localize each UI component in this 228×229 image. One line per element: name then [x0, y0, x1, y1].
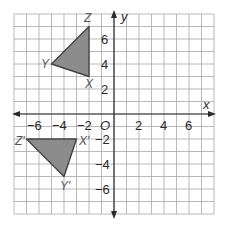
vertex-label-z: Z — [83, 11, 92, 25]
origin-label: O — [100, 118, 110, 133]
y-tick-label: 4 — [101, 57, 108, 72]
vertex-label-y: Y — [41, 57, 50, 71]
x-axis-left-arrow-icon — [12, 111, 20, 117]
vertex-label-z-prime: Z' — [14, 134, 25, 148]
x-tick-label: −2 — [77, 118, 92, 133]
y-tick-label: 2 — [101, 82, 108, 97]
x-axis-label: x — [202, 97, 210, 112]
vertex-label-x-prime: X' — [78, 134, 90, 148]
y-tick-label: −2 — [95, 132, 110, 147]
x-tick-label: 6 — [185, 118, 192, 133]
vertex-label-x: X — [84, 77, 94, 91]
axes — [12, 10, 216, 219]
coordinate-plane-diagram: y x O −6 −4 −2 2 4 6 6 4 2 −2 −4 −6 Z Y … — [0, 0, 228, 229]
x-tick-label: −6 — [27, 118, 42, 133]
coordinate-plane: y x O −6 −4 −2 2 4 6 6 4 2 −2 −4 −6 Z Y … — [0, 0, 228, 229]
x-tick-label: −4 — [52, 118, 67, 133]
y-tick-label: 6 — [101, 32, 108, 47]
y-axis-down-arrow-icon — [111, 211, 117, 219]
x-tick-label: 4 — [160, 118, 167, 133]
y-tick-label: −4 — [95, 157, 110, 172]
y-axis-label: y — [120, 9, 129, 24]
y-tick-label: −6 — [95, 182, 110, 197]
x-tick-label: 2 — [135, 118, 142, 133]
vertex-label-y-prime: Y' — [60, 179, 71, 193]
